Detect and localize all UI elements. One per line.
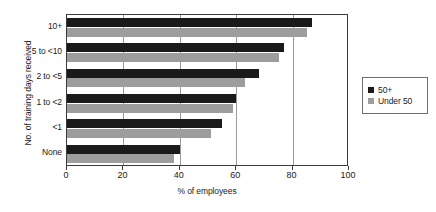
bar-group [67, 142, 347, 167]
y-axis-label-1: <1 [8, 122, 62, 132]
bar-group [67, 66, 347, 91]
bar [67, 53, 279, 62]
plot-area [66, 14, 348, 166]
bar [67, 145, 180, 154]
chart-legend: 50+Under 50 [362, 77, 428, 114]
y-axis-label-5-to-10: 5 to <10 [8, 46, 62, 56]
x-axis-tick-labels: 020406080100 [66, 170, 348, 184]
bar [67, 28, 307, 37]
legend-swatch-icon [368, 98, 374, 104]
x-tick-label-20: 20 [102, 170, 142, 180]
bar-chart: No. of training days received 10+5 to <1… [0, 0, 436, 212]
x-axis-title: % of employees [66, 186, 348, 196]
bar [67, 69, 259, 78]
bar [67, 154, 174, 163]
y-axis-label-2-to-5: 2 to <5 [8, 71, 62, 81]
bar-group [67, 91, 347, 116]
bar-group [67, 15, 347, 40]
legend-item[interactable]: 50+ [368, 85, 423, 95]
bar [67, 43, 284, 52]
legend-label: 50+ [378, 85, 392, 95]
bar [67, 129, 211, 138]
bar [67, 18, 312, 27]
bar-group [67, 40, 347, 65]
legend-swatch-icon [368, 87, 374, 93]
x-tick-label-0: 0 [46, 170, 86, 180]
x-tick-label-40: 40 [159, 170, 199, 180]
legend-label: Under 50 [378, 96, 412, 106]
x-tick-label-60: 60 [215, 170, 255, 180]
y-axis-label-10: 10+ [8, 21, 62, 31]
x-tick-label-80: 80 [272, 170, 312, 180]
bar [67, 119, 222, 128]
legend-item[interactable]: Under 50 [368, 96, 423, 106]
bar [67, 94, 236, 103]
bar-group [67, 116, 347, 141]
y-axis-label-none: None [8, 147, 62, 157]
bar [67, 104, 233, 113]
x-tick-label-100: 100 [328, 170, 368, 180]
bar [67, 78, 245, 87]
y-axis-category-labels: 10+5 to <102 to <51 to <2<1None [8, 14, 62, 166]
y-axis-label-1-to-2: 1 to <2 [8, 97, 62, 107]
